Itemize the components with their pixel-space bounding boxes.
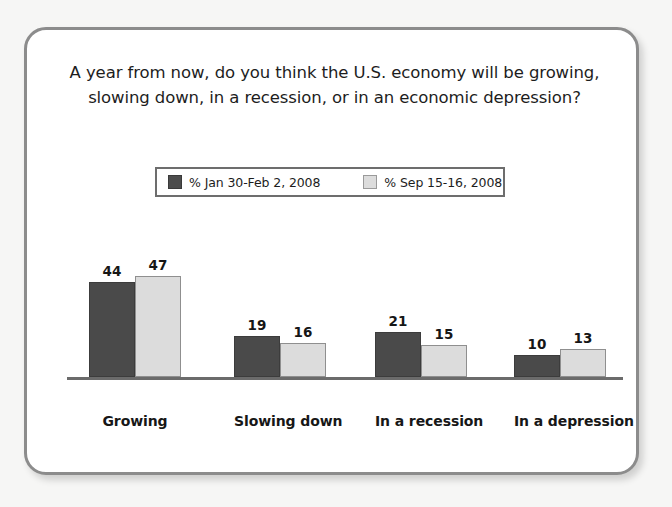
legend-item-series-1: % Jan 30-Feb 2, 2008 (168, 175, 320, 190)
bar-wrap-in-a-recession-jan: 21 (375, 265, 421, 377)
bar-in-a-depression-sep (560, 349, 606, 377)
legend-label-series-2: % Sep 15-16, 2008 (384, 175, 502, 190)
bar-value-growing-sep: 47 (135, 257, 181, 273)
bar-value-in-a-depression-sep: 13 (560, 330, 606, 346)
light-swatch-icon (363, 175, 377, 189)
bar-slowing-down-sep (280, 343, 326, 377)
bar-wrap-slowing-down-jan: 19 (234, 265, 280, 377)
chart-legend: % Jan 30-Feb 2, 2008 % Sep 15-16, 2008 (155, 167, 505, 197)
bar-in-a-recession-jan (375, 332, 421, 377)
x-axis-line (67, 377, 623, 380)
category-label-slowing-down: Slowing down (234, 413, 326, 429)
dark-swatch-icon (168, 175, 182, 189)
category-label-in-a-depression: In a depression (514, 413, 606, 429)
bar-wrap-in-a-depression-jan: 10 (514, 265, 560, 377)
chart-title-line-2: slowing down, in a recession, or in an e… (49, 85, 620, 110)
bar-growing-sep (135, 276, 181, 377)
bar-wrap-in-a-recession-sep: 15 (421, 265, 467, 377)
bar-in-a-depression-jan (514, 355, 560, 377)
chart-card: A year from now, do you think the U.S. e… (24, 27, 639, 475)
plot-area: 44 47 Growing 19 16 (27, 235, 636, 407)
bar-in-a-recession-sep (421, 345, 467, 377)
bar-growing-jan (89, 282, 135, 377)
category-label-in-a-recession: In a recession (375, 413, 467, 429)
bar-slowing-down-jan (234, 336, 280, 377)
legend-label-series-1: % Jan 30-Feb 2, 2008 (189, 175, 320, 190)
chart-title: A year from now, do you think the U.S. e… (49, 60, 620, 110)
bar-wrap-growing-sep: 47 (135, 265, 181, 377)
chart-title-line-1: A year from now, do you think the U.S. e… (49, 60, 620, 85)
bar-wrap-growing-jan: 44 (89, 265, 135, 377)
bar-value-in-a-recession-sep: 15 (421, 326, 467, 342)
bar-wrap-in-a-depression-sep: 13 (560, 265, 606, 377)
bar-value-slowing-down-jan: 19 (234, 317, 280, 333)
category-label-growing: Growing (89, 413, 181, 429)
bar-value-in-a-recession-jan: 21 (375, 313, 421, 329)
legend-item-series-2: % Sep 15-16, 2008 (363, 175, 502, 190)
bar-value-slowing-down-sep: 16 (280, 324, 326, 340)
bar-wrap-slowing-down-sep: 16 (280, 265, 326, 377)
bar-value-growing-jan: 44 (89, 263, 135, 279)
bar-value-in-a-depression-jan: 10 (514, 336, 560, 352)
